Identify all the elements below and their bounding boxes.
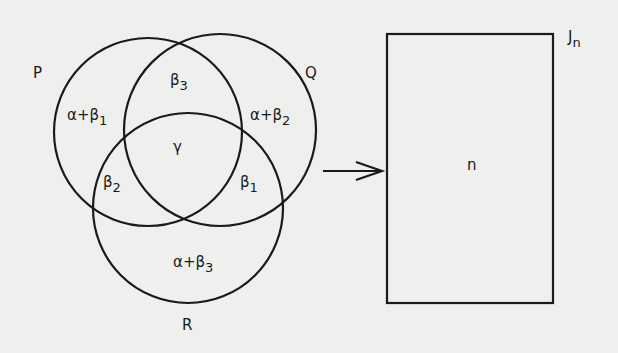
region-pqr: γ xyxy=(173,140,182,159)
region-p-only: α+β1 xyxy=(67,108,107,127)
circle-q xyxy=(124,34,316,226)
box-content: n xyxy=(467,158,477,173)
box-label-jn: Jn xyxy=(568,30,581,49)
set-label-p: P xyxy=(33,66,42,81)
circle-r xyxy=(93,113,283,303)
set-label-q: Q xyxy=(305,66,317,81)
set-label-r: R xyxy=(182,318,192,333)
region-qr: β1 xyxy=(240,175,258,194)
region-r-only: α+β3 xyxy=(173,255,213,274)
region-pr: β2 xyxy=(103,175,121,194)
region-pq: β3 xyxy=(170,73,188,92)
diagram-canvas xyxy=(0,0,618,353)
arrow-right-icon xyxy=(323,162,382,180)
region-q-only: α+β2 xyxy=(250,108,290,127)
